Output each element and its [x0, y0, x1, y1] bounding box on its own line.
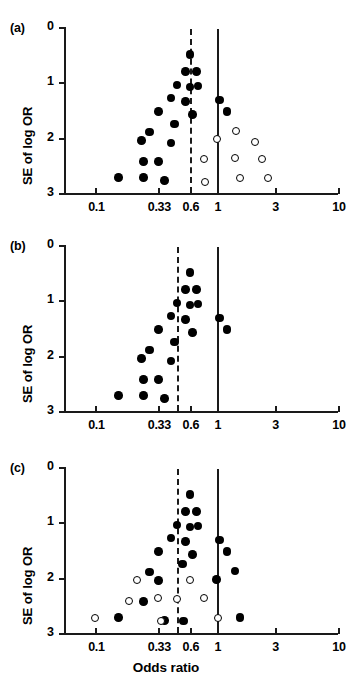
data-point-observed [160, 176, 169, 185]
x-tick-label: 0.1 [70, 419, 122, 432]
data-point-observed [145, 346, 154, 355]
y-tick-label: 1 [30, 515, 54, 528]
data-point-observed [139, 375, 148, 384]
data-point-imputed [264, 174, 272, 182]
y-axis-line [64, 245, 66, 412]
null-effect-line [217, 29, 219, 193]
data-point-observed [114, 613, 123, 622]
panel-2: (b)SE of log OR01230.10.330.61310 [0, 218, 350, 433]
data-point-imputed [200, 594, 208, 602]
data-point-imputed [186, 576, 194, 584]
data-point-observed [186, 50, 195, 59]
data-point-imputed [125, 597, 133, 605]
data-point-observed [194, 522, 203, 531]
data-point-imputed [200, 155, 208, 163]
x-tick-label: 3 [250, 419, 302, 432]
data-point-observed [181, 97, 190, 106]
x-tick [338, 406, 340, 412]
data-point-observed [139, 597, 148, 606]
data-point-observed [223, 547, 232, 556]
y-axis-line [64, 27, 66, 194]
y-tick [59, 245, 65, 247]
data-point-imputed [157, 617, 165, 625]
x-tick-label: 0.1 [70, 201, 122, 214]
x-tick [158, 406, 160, 412]
x-tick-label: 1 [192, 641, 244, 654]
x-axis-line [64, 411, 338, 413]
x-axis-line [64, 633, 338, 635]
data-point-observed [215, 536, 224, 545]
y-axis-label: SE of log OR [20, 325, 35, 403]
data-point-imputed [214, 614, 222, 622]
x-axis-label: Odds ratio [64, 660, 338, 675]
data-point-observed [223, 325, 232, 334]
data-point-imputed [173, 595, 181, 603]
y-axis-label: SE of log OR [20, 107, 35, 185]
x-tick [158, 188, 160, 194]
data-point-observed [179, 617, 188, 626]
x-tick-label: 3 [250, 201, 302, 214]
data-point-observed [139, 157, 148, 166]
x-tick [158, 628, 160, 634]
x-tick [95, 406, 97, 412]
data-point-observed [215, 314, 224, 323]
data-point-observed [223, 107, 232, 116]
data-point-observed [186, 523, 195, 532]
data-point-imputed [232, 127, 240, 135]
data-point-observed [194, 82, 203, 91]
data-point-observed [192, 285, 201, 294]
y-tick [59, 578, 65, 580]
y-tick-label: 3 [30, 626, 54, 639]
data-point-observed [167, 357, 176, 366]
data-point-observed [173, 521, 182, 530]
data-point-observed [154, 325, 163, 334]
data-point-observed [139, 391, 148, 400]
data-point-observed [154, 157, 163, 166]
y-tick-label: 1 [30, 75, 54, 88]
data-point-observed [194, 300, 203, 309]
y-tick [59, 633, 65, 635]
data-point-observed [186, 83, 195, 92]
x-tick-label: 0.1 [70, 641, 122, 654]
y-tick [59, 411, 65, 413]
pooled-estimate-line [177, 247, 179, 411]
pooled-estimate-line [177, 469, 179, 633]
data-point-observed [215, 96, 224, 105]
data-point-imputed [154, 594, 162, 602]
x-tick-label: 1 [192, 201, 244, 214]
panel-letter: (b) [10, 240, 25, 253]
data-point-observed [173, 299, 182, 308]
y-tick [59, 300, 65, 302]
y-axis-label: SE of log OR [20, 547, 35, 625]
x-tick [338, 188, 340, 194]
data-point-observed [181, 537, 190, 546]
data-point-observed [167, 534, 176, 543]
y-tick-label: 2 [30, 349, 54, 362]
data-point-imputed [213, 135, 221, 143]
y-tick-label: 0 [30, 20, 54, 33]
data-point-observed [114, 173, 123, 182]
data-point-observed [181, 67, 190, 76]
x-tick [275, 628, 277, 634]
data-point-observed [192, 67, 201, 76]
panel-3: (c)SE of log OR01230.10.330.61310Odds ra… [0, 440, 350, 655]
x-tick [95, 188, 97, 194]
y-axis-line [64, 467, 66, 634]
data-point-imputed [251, 138, 259, 146]
data-point-observed [154, 375, 163, 384]
data-point-observed [145, 568, 154, 577]
data-point-observed [212, 575, 221, 584]
x-tick [338, 628, 340, 634]
data-point-imputed [133, 576, 141, 584]
data-point-observed [170, 120, 179, 129]
panel-1: (a)SE of log OR01230.10.330.61310 [0, 0, 350, 215]
y-tick-label: 3 [30, 186, 54, 199]
y-tick [59, 138, 65, 140]
data-point-observed [154, 576, 163, 585]
data-point-observed [188, 110, 197, 119]
y-tick-label: 0 [30, 238, 54, 251]
data-point-observed [188, 328, 197, 337]
data-point-observed [236, 613, 245, 622]
data-point-observed [167, 139, 176, 148]
